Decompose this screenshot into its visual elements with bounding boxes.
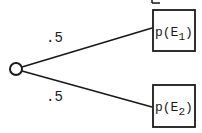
branch-line-2 [22,71,152,107]
branch-probability-1: .5 [46,30,63,46]
probability-tree-diagram: .5 .5 p(E1) p(E2) [0,0,202,133]
cropped-fragment [152,0,160,3]
branch-probability-2: .5 [46,89,63,105]
branch-line-1 [22,28,152,67]
chance-node [10,63,22,75]
